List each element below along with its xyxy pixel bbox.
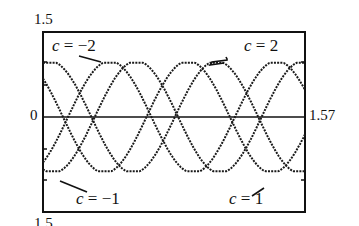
annotation-var: c [52,36,60,55]
annotation-c-2: c = 2 [244,37,278,54]
y-tick-bottom: 1.5 [34,216,53,226]
annotation-var: c [244,36,252,55]
annotation-var: c [76,189,84,208]
y-tick-top: 1.5 [34,12,53,27]
annotation-leaders [60,56,264,196]
annotation-c-minus-2: c = −2 [52,37,96,54]
annotation-c-minus-1: c = −1 [76,190,120,207]
leader-c-minus-2 [79,56,101,62]
annotation-value: = 2 [252,36,279,55]
annotation-value: = −1 [84,189,120,208]
annotation-var: c [229,189,237,208]
annotation-value: = −2 [60,36,96,55]
plot-frame [43,32,305,212]
chart-plot [0,0,359,226]
y-tick-bottom-text: 1.5 [34,215,53,226]
leader-c-2 [210,57,227,65]
annotation-value: = 1 [237,189,264,208]
x-tick-right: 1.57 [309,108,335,123]
annotation-c-1: c = 1 [229,190,263,207]
y-tick-zero: 0 [30,108,38,123]
